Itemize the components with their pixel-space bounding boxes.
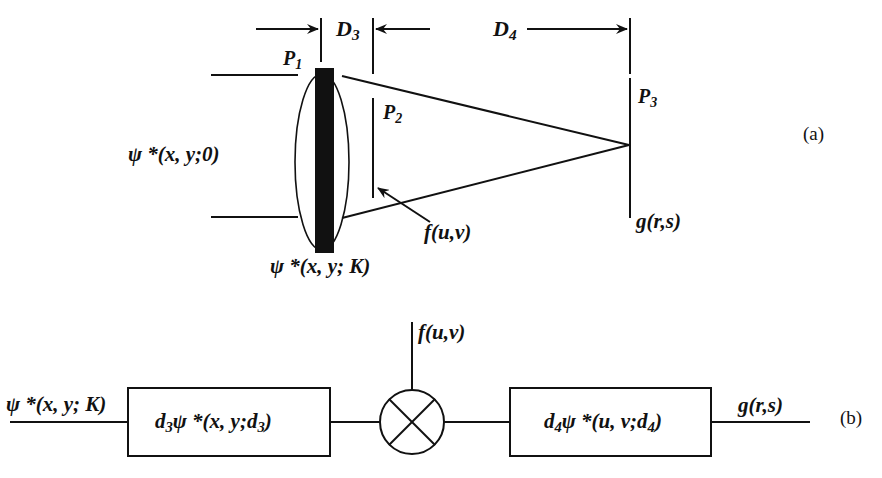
part-a-tag: (a) xyxy=(803,124,824,143)
p3-label: P3 xyxy=(638,86,657,110)
p1-label: P1 xyxy=(283,48,302,72)
d3-label: D3 xyxy=(336,18,360,42)
plane-p1-plate xyxy=(315,68,334,253)
input-field-label: ψ *(x, y;0) xyxy=(128,144,220,165)
mask-label: f(u,v) xyxy=(424,222,471,243)
p2-label: P2 xyxy=(383,102,402,126)
d4-label: D4 xyxy=(493,18,517,42)
ray-bottom xyxy=(342,145,629,218)
b-input-label: ψ *(x, y; K) xyxy=(6,394,106,415)
output-plane-label: g(r,s) xyxy=(636,211,681,232)
block-d4-label: d4ψ *(u, v;d4) xyxy=(544,411,662,434)
mask-pointer xyxy=(378,188,430,222)
b-output-label: g(r,s) xyxy=(738,395,783,416)
lens-label: ψ *(x, y; K) xyxy=(270,256,370,277)
part-b-tag: (b) xyxy=(840,408,862,427)
block-d3-label: d3ψ *(x, y;d3) xyxy=(155,411,272,434)
multiplier-input-label: f(u,v) xyxy=(418,322,465,343)
